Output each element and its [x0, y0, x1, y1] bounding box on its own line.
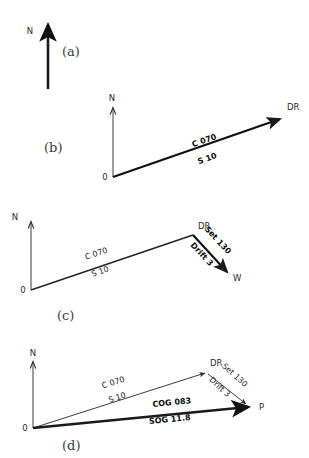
speed-label-d: S 10	[107, 391, 127, 405]
p-label-d: P	[259, 402, 264, 412]
panel-d: N 0 C 070 S 10 DR Set 130 Drift 3 COG 08…	[22, 348, 264, 453]
panel-a: N (a)	[27, 25, 80, 89]
navigation-vector-diagram: N (a) N 0 C 070 S 10 DR (b) N 0 C 070 S …	[0, 0, 309, 458]
north-label-d: N	[30, 348, 36, 358]
north-label-c: N	[12, 212, 18, 222]
speed-label-b: S 10	[196, 151, 218, 166]
panel-tag-b: (b)	[44, 140, 62, 155]
panel-tag-a: (a)	[62, 44, 80, 59]
panel-tag-c: (c)	[57, 308, 74, 323]
panel-tag-d: (d)	[62, 438, 80, 453]
origin-label-c: 0	[20, 285, 25, 295]
course-vector-c	[31, 235, 193, 290]
origin-label-d: 0	[22, 423, 27, 433]
dr-label-b: DR	[287, 102, 300, 112]
course-label-c: C 070	[84, 246, 109, 262]
course-label-b: C 070	[191, 132, 218, 149]
drift-label-d: Drift 3	[207, 375, 232, 399]
panel-b: N 0 C 070 S 10 DR (b)	[44, 93, 300, 182]
speed-label-c: S 10	[90, 265, 110, 279]
w-label-c: W	[233, 273, 242, 283]
north-label-b: N	[109, 93, 115, 103]
panel-c: N 0 C 070 S 10 DR Set 130 Drift 3 W (c)	[12, 212, 242, 323]
origin-label-b: 0	[102, 172, 107, 182]
north-label-a: N	[27, 26, 33, 36]
cog-label-d: COG 083	[152, 396, 191, 409]
course-label-d: C 070	[101, 375, 126, 391]
